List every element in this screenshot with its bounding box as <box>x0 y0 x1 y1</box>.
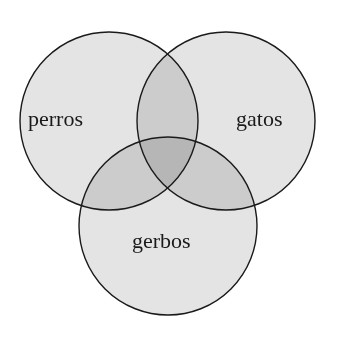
label-gatos: gatos <box>236 106 282 131</box>
label-perros: perros <box>28 106 83 131</box>
circle-gerbos-fill <box>79 137 257 315</box>
fills <box>20 32 315 315</box>
label-gerbos: gerbos <box>132 228 191 253</box>
venn-diagram: perros gatos gerbos <box>0 0 340 350</box>
